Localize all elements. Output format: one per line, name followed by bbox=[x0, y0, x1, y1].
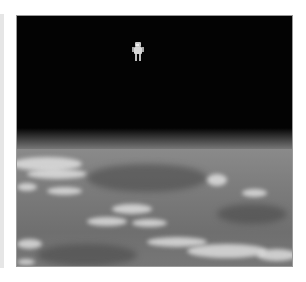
photograph bbox=[16, 15, 293, 267]
horizon-atmosphere bbox=[17, 128, 292, 150]
page bbox=[0, 0, 306, 282]
left-edge-strip bbox=[0, 14, 4, 268]
astronaut-figure bbox=[132, 41, 144, 63]
earth-surface bbox=[17, 149, 292, 267]
space-region bbox=[17, 16, 292, 140]
